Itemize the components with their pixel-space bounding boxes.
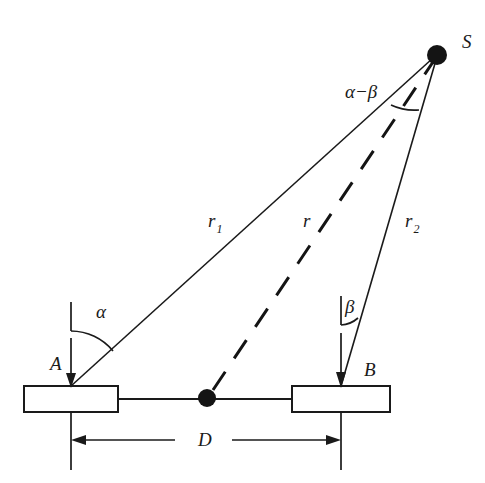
label-range-r2-base: r <box>405 210 413 231</box>
station-b-box <box>292 386 390 412</box>
label-angle-alpha: α <box>96 301 107 322</box>
geometry-diagram: S A B r1 r r2 α β α−β D <box>0 0 485 483</box>
station-a-box <box>24 386 118 412</box>
label-range-r2-subscript: 2 <box>413 222 419 236</box>
label-range-r1-base: r <box>208 210 216 231</box>
baseline-midpoint-dot <box>198 389 216 407</box>
label-baseline-distance-d: D <box>197 429 212 450</box>
label-range-r: r <box>303 210 311 231</box>
source-point-dot <box>427 45 447 65</box>
label-range-r1-subscript: 1 <box>216 222 222 236</box>
label-angle-beta: β <box>344 296 355 317</box>
label-station-a: A <box>48 353 62 374</box>
label-station-b: B <box>364 359 376 380</box>
label-source-s: S <box>462 31 472 52</box>
figure-container: S A B r1 r r2 α β α−β D <box>0 0 485 483</box>
label-angle-alpha-minus-beta: α−β <box>345 81 378 102</box>
